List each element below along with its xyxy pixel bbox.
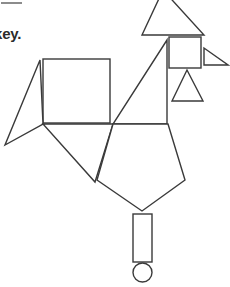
- worksheet-page: key.: [0, 0, 230, 287]
- body-square-shape: [43, 59, 110, 123]
- left-wing-thin-triangle-shape: [5, 60, 43, 145]
- geometric-shape-figure: [0, 0, 230, 287]
- leg-rectangle-shape: [133, 214, 152, 262]
- foot-circle-shape: [133, 263, 152, 282]
- pentagon-body-shape: [97, 124, 185, 211]
- neck-right-triangle-shape: [113, 40, 167, 124]
- head-square-shape: [169, 37, 201, 68]
- beak-right-triangle-shape: [204, 48, 228, 65]
- top-triangle-shape: [142, 0, 204, 35]
- small-isosceles-triangle-shape: [172, 70, 203, 101]
